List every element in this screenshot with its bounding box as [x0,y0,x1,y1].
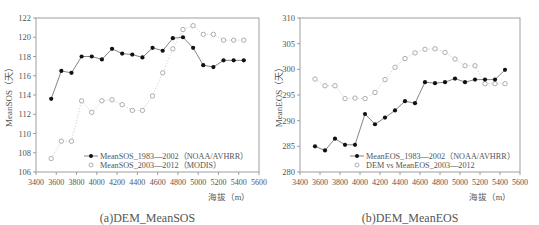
data-point [343,96,347,100]
data-point [181,27,185,31]
data-point [433,47,437,51]
y-axis: 106108110112114116118120122 [18,13,36,177]
data-point [242,38,246,42]
data-point [49,156,53,160]
y-axis: 280285290295300305310 [282,13,300,177]
data-point [333,137,337,141]
data-point [383,115,387,119]
x-tick-label: 4400 [129,178,145,187]
x-tick-label: 4400 [392,178,408,187]
data-point [80,54,84,58]
y-tick-label: 114 [19,90,32,100]
data-point [171,47,175,51]
data-point [313,77,317,81]
data-point [373,90,377,94]
data-point [69,71,73,75]
data-point [493,82,497,86]
series-open-circles [313,47,507,101]
data-point [443,50,447,54]
y-tick-label: 110 [19,129,31,139]
x-tick-label: 4200 [372,178,388,187]
x-tick-label: 4000 [352,178,368,187]
data-point [403,56,407,60]
x-tick-label: 4000 [89,178,105,187]
data-point [503,68,507,72]
data-point [221,58,225,62]
x-tick-label: 4600 [150,178,166,187]
chart-mean-eos: 2802852902953003053103400360038004000420… [270,0,539,225]
data-point [343,143,347,147]
x-tick-label: 3600 [312,178,328,187]
data-point [373,122,377,126]
series-open-circles [49,24,246,161]
data-point [363,96,367,100]
y-tick-label: 116 [19,71,31,81]
data-point [211,32,215,36]
legend-label-1: MeanEOS_1983—2002（NOAA/AVHRR） [366,152,515,161]
data-point [393,108,397,112]
x-tick-label: 5400 [231,178,247,187]
y-tick-label: 120 [18,32,31,42]
legend: MeanSOS_1983—2002（NOAA/AVHRR）MeanSOS_200… [84,152,248,170]
figure: 1061081101121141161181201223400360038004… [0,0,539,225]
x-tick-label: 3800 [69,178,85,187]
legend: MeanEOS_1983—2002（NOAA/AVHRR）DEM vs Mean… [350,152,515,170]
data-point [110,47,114,51]
data-point [443,80,447,84]
data-point [423,80,427,84]
data-point [433,81,437,85]
data-point [483,82,487,86]
data-point [323,84,327,88]
data-point [100,57,104,61]
legend-label-1: MeanSOS_1983—2002（NOAA/AVHRR） [100,152,248,161]
data-point [120,102,124,106]
data-point [161,49,165,53]
x-tick-label: 4800 [170,178,186,187]
data-point [413,51,417,55]
data-point [191,46,195,50]
data-point [323,148,327,152]
data-point [140,55,144,59]
data-point [79,99,83,103]
data-point [463,80,467,84]
data-point [191,24,195,28]
y-tick-label: 285 [282,141,295,151]
data-point [463,64,467,68]
x-axis-label: 海拔（m） [208,192,251,202]
data-point [181,35,185,39]
data-point [453,76,457,80]
data-point [413,101,417,105]
legend-label-2: MeanSOS_2003—2012（MODIS） [100,161,221,170]
series-filled-circles [49,35,246,101]
data-point [423,47,427,51]
y-tick-label: 295 [282,90,295,100]
x-tick-label: 3400 [28,178,44,187]
data-point [483,78,487,82]
data-point [100,99,104,103]
y-tick-label: 122 [18,13,31,23]
y-tick-label: 310 [282,13,295,23]
data-point [90,54,94,58]
y-tick-label: 118 [19,52,31,62]
panel-caption: (b)DEM_MeanEOS [362,211,459,225]
y-tick-label: 300 [282,64,295,74]
panel-caption: (a)DEM_MeanSOS [100,211,195,225]
data-point [201,63,205,67]
x-tick-label: 3800 [332,178,348,187]
data-point [473,78,477,82]
x-tick-label: 4200 [109,178,125,187]
data-point [69,139,73,143]
y-tick-label: 290 [282,116,295,126]
x-axis-label: 海拔（m） [469,192,512,202]
x-tick-label: 4800 [432,178,448,187]
y-tick-label: 108 [18,148,31,158]
x-tick-label: 5000 [452,178,468,187]
x-tick-label: 5600 [251,178,267,187]
data-point [161,71,165,75]
data-point [313,144,317,148]
y-axis-label: MeanSOS（天） [4,63,14,127]
data-point [403,99,407,103]
data-point [393,65,397,69]
data-point [231,38,235,42]
x-tick-label: 5400 [492,178,508,187]
